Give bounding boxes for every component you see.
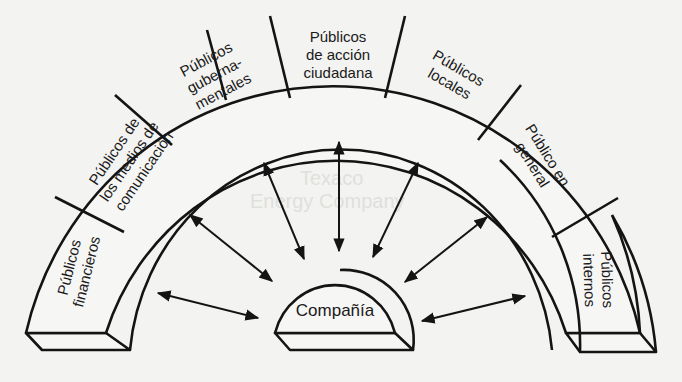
arrow-icon	[422, 296, 525, 321]
label-line: Públicos	[310, 28, 367, 45]
arrow-icon	[190, 215, 272, 281]
label-line: ciudadana	[303, 64, 373, 81]
label-line: Públicos	[598, 251, 617, 308]
bleed-through-background: Texaco Energy Company	[250, 167, 405, 212]
publics-arch-diagram: Texaco Energy Company Públicos financier…	[0, 0, 682, 382]
segment-internos: Públicos internos	[580, 251, 617, 309]
segment-accion-ciudadana: Públicos de acción ciudadana	[303, 28, 373, 81]
company-dome-base	[275, 333, 413, 350]
bleed-text: Texaco	[300, 167, 363, 189]
bleed-text: Energy Company	[250, 190, 405, 212]
arrow-icon	[158, 293, 258, 318]
label-line: internos	[580, 253, 599, 307]
arch-left-foot	[26, 333, 130, 350]
company-label: Compañía	[296, 301, 375, 320]
label-line: de acción	[306, 46, 370, 63]
segment-locales: Públicos locales	[421, 46, 488, 105]
arrow-icon	[405, 217, 487, 282]
